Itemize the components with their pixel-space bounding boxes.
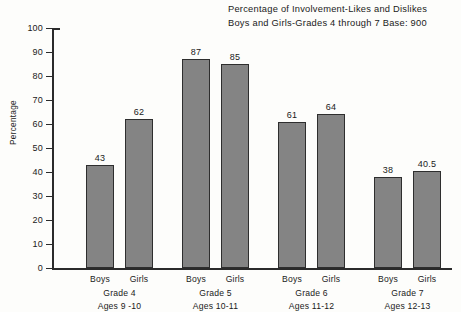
y-axis-tick-label: 10 [33, 239, 43, 249]
bar-value-label: 40.5 [418, 159, 436, 169]
y-axis-tick-label: 30 [33, 191, 43, 201]
bar-value-label: 85 [230, 52, 240, 62]
y-axis-tick [46, 220, 53, 221]
series-name-label: Girls [226, 274, 245, 284]
group-label: Grade 6Ages 11-12 [289, 288, 334, 311]
y-axis-label: Percentage [9, 88, 18, 158]
y-axis-tick [46, 244, 53, 245]
series-name-label: Boys [378, 274, 398, 284]
y-axis-tick-label: 90 [33, 47, 43, 57]
y-axis-tick-label: 50 [33, 143, 43, 153]
group-ages-label: Ages 12-13 [385, 301, 431, 311]
group-ages-label: Ages 10-11 [193, 301, 238, 311]
plot-area: 0102030405060708090100 4362878561643840.… [52, 28, 452, 268]
group-label: Grade 4Ages 9 -10 [98, 288, 142, 311]
chart-page: Percentage of Involvement-Likes and Disl… [0, 0, 461, 312]
y-axis-tick-label: 70 [33, 95, 43, 105]
bar: 43 [86, 165, 114, 268]
y-axis-tick [46, 100, 53, 101]
bar: 62 [125, 119, 153, 268]
group-grade-label: Grade 4 [98, 288, 142, 298]
y-axis-tick [46, 28, 53, 29]
chart-title-line-1: Percentage of Involvement-Likes and Disl… [228, 2, 460, 16]
y-axis-tick-label: 20 [33, 215, 43, 225]
series-name-label: Girls [130, 274, 149, 284]
group-grade-label: Grade 6 [289, 288, 334, 298]
y-axis-tick [46, 196, 53, 197]
bar: 40.5 [413, 171, 441, 268]
bar: 85 [221, 64, 249, 268]
y-axis-tick [46, 52, 53, 53]
y-axis-top-cap [52, 28, 60, 30]
series-name-label: Girls [322, 274, 341, 284]
bar: 87 [182, 59, 210, 268]
series-name-label: Boys [90, 274, 110, 284]
y-axis-tick-label: 80 [33, 71, 43, 81]
chart-title: Percentage of Involvement-Likes and Disl… [228, 2, 460, 30]
bar-value-label: 38 [383, 165, 393, 175]
bar: 64 [317, 114, 345, 268]
group-label: Grade 5Ages 10-11 [193, 288, 238, 311]
bar: 61 [278, 122, 306, 268]
group-ages-label: Ages 11-12 [289, 301, 334, 311]
y-axis-tick-label: 100 [27, 23, 43, 33]
group-label: Grade 7Ages 12-13 [385, 288, 431, 311]
group-grade-label: Grade 7 [385, 288, 431, 298]
group-ages-label: Ages 9 -10 [98, 301, 142, 311]
y-axis-tick-label: 0 [38, 263, 43, 273]
bar-value-label: 43 [95, 153, 105, 163]
y-axis-tick [46, 268, 53, 269]
bar-value-label: 62 [134, 107, 144, 117]
y-axis-tick-label: 40 [33, 167, 43, 177]
y-axis-tick [46, 124, 53, 125]
bar-value-label: 61 [287, 110, 297, 120]
y-axis-tick [46, 76, 53, 77]
group-grade-label: Grade 5 [193, 288, 238, 298]
y-axis-tick-label: 60 [33, 119, 43, 129]
bar: 38 [374, 177, 402, 268]
bar-value-label: 64 [326, 102, 336, 112]
series-name-label: Boys [282, 274, 302, 284]
series-name-label: Girls [418, 274, 437, 284]
bar-value-label: 87 [191, 47, 201, 57]
y-axis-tick [46, 148, 53, 149]
x-axis-baseline [52, 268, 452, 270]
y-axis-tick [46, 172, 53, 173]
series-name-label: Boys [186, 274, 206, 284]
